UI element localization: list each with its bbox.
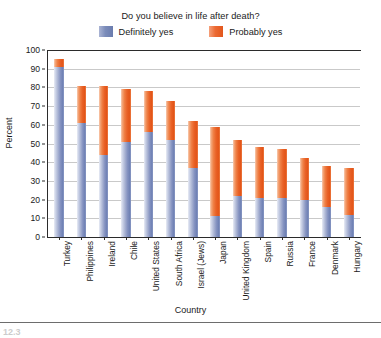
- bar-segment-definitely-yes[interactable]: [188, 168, 198, 237]
- y-axis-tick-mark: [42, 199, 45, 200]
- y-axis-tick-label: 90: [30, 64, 40, 74]
- bar-segment-probably-yes[interactable]: [121, 89, 131, 141]
- bar-segment-definitely-yes[interactable]: [166, 140, 176, 237]
- x-axis-tick-label: Japan: [218, 241, 228, 264]
- y-axis-tick-label: 100: [26, 45, 40, 55]
- y-axis-tick-mark: [42, 87, 45, 88]
- x-axis-tick-mark: [327, 237, 328, 240]
- x-axis-tick-label: Ireland: [107, 241, 117, 267]
- bar-segment-probably-yes[interactable]: [300, 158, 310, 199]
- legend-swatch-icon-probably-yes: [209, 26, 223, 37]
- bar-segment-probably-yes[interactable]: [144, 91, 154, 132]
- x-axis-tick-mark: [282, 237, 283, 240]
- chart-title: Do you believe in life after death?: [0, 11, 381, 21]
- bar-column[interactable]: [300, 50, 310, 237]
- bar-column[interactable]: [344, 50, 354, 237]
- bar-segment-definitely-yes[interactable]: [300, 200, 310, 237]
- x-axis-tick-label: Russia: [285, 241, 295, 267]
- bar-column[interactable]: [54, 50, 64, 237]
- caption-fragment: 12.3: [3, 327, 21, 335]
- x-axis-title: Country: [0, 305, 381, 315]
- x-axis-tick-label: United States: [151, 241, 161, 291]
- x-axis-tick-mark: [81, 237, 82, 240]
- bar-stack: [166, 101, 176, 238]
- legend-entry-probably-yes: Probably yes: [209, 26, 282, 37]
- y-axis-tick-label: 40: [30, 157, 40, 167]
- figure-container: Do you believe in life after death? Defi…: [0, 0, 381, 338]
- bar-segment-definitely-yes[interactable]: [277, 198, 287, 237]
- bar-column[interactable]: [233, 50, 243, 237]
- bar-stack: [322, 166, 332, 237]
- y-axis-tick-label: 60: [30, 120, 40, 130]
- legend-swatch-icon-definitely-yes: [99, 26, 113, 37]
- bar-segment-definitely-yes[interactable]: [121, 142, 131, 237]
- bar-stack: [210, 127, 220, 237]
- bar-segment-definitely-yes[interactable]: [144, 132, 154, 237]
- y-axis-tick-mark: [42, 180, 45, 181]
- bar-segment-definitely-yes[interactable]: [344, 215, 354, 237]
- bars-layer: [48, 50, 360, 237]
- x-axis-tick-label: Israel (Jews): [196, 241, 206, 288]
- bar-column[interactable]: [210, 50, 220, 237]
- bar-column[interactable]: [322, 50, 332, 237]
- bar-column[interactable]: [144, 50, 154, 237]
- bar-segment-definitely-yes[interactable]: [255, 198, 265, 237]
- bar-segment-definitely-yes[interactable]: [54, 67, 64, 237]
- x-axis-tick-label: France: [307, 241, 317, 267]
- bar-column[interactable]: [99, 50, 109, 237]
- bar-segment-probably-yes[interactable]: [99, 86, 109, 155]
- bar-segment-definitely-yes[interactable]: [210, 216, 220, 237]
- legend-entry-definitely-yes: Definitely yes: [99, 26, 174, 37]
- bar-column[interactable]: [166, 50, 176, 237]
- bar-column[interactable]: [255, 50, 265, 237]
- x-axis-tick-mark: [237, 237, 238, 240]
- y-axis-title: Percent: [4, 101, 14, 165]
- bar-segment-probably-yes[interactable]: [188, 121, 198, 168]
- bar-segment-definitely-yes[interactable]: [99, 155, 109, 237]
- bar-segment-probably-yes[interactable]: [233, 140, 243, 196]
- bar-stack: [188, 121, 198, 237]
- bar-segment-definitely-yes[interactable]: [322, 207, 332, 237]
- y-axis-tick-mark: [42, 237, 45, 238]
- x-axis-tick-mark: [260, 237, 261, 240]
- y-axis-tick-label: 20: [30, 195, 40, 205]
- y-axis-tick-mark: [42, 218, 45, 219]
- bar-stack: [233, 140, 243, 237]
- bar-segment-definitely-yes[interactable]: [77, 123, 87, 237]
- y-axis-tick-mark: [42, 124, 45, 125]
- bar-segment-definitely-yes[interactable]: [233, 196, 243, 237]
- bar-segment-probably-yes[interactable]: [54, 59, 64, 66]
- footer-divider: [0, 322, 381, 323]
- bar-segment-probably-yes[interactable]: [166, 101, 176, 140]
- x-axis-tick-mark: [304, 237, 305, 240]
- y-axis-tick-label: 0: [35, 232, 40, 242]
- bar-column[interactable]: [277, 50, 287, 237]
- bar-segment-probably-yes[interactable]: [322, 166, 332, 207]
- bar-column[interactable]: [121, 50, 131, 237]
- x-axis-line: [47, 237, 361, 238]
- x-axis-tick-mark: [104, 237, 105, 240]
- bar-segment-probably-yes[interactable]: [277, 149, 287, 198]
- bar-segment-probably-yes[interactable]: [255, 147, 265, 197]
- x-axis-tick-mark: [215, 237, 216, 240]
- chart-legend: Definitely yes Probably yes: [0, 26, 381, 37]
- bar-stack: [99, 86, 109, 237]
- x-axis-tick-mark: [126, 237, 127, 240]
- bar-stack: [344, 168, 354, 237]
- y-axis-tick-label: 80: [30, 82, 40, 92]
- x-axis-tick-mark: [349, 237, 350, 240]
- bar-column[interactable]: [77, 50, 87, 237]
- y-axis-tick-mark: [42, 106, 45, 107]
- bar-stack: [54, 59, 64, 237]
- y-axis-tick-mark: [42, 162, 45, 163]
- bar-segment-probably-yes[interactable]: [210, 127, 220, 217]
- y-axis-tick-label: 70: [30, 101, 40, 111]
- bar-column[interactable]: [188, 50, 198, 237]
- bar-stack: [121, 89, 131, 237]
- bar-segment-probably-yes[interactable]: [344, 168, 354, 215]
- bar-segment-probably-yes[interactable]: [77, 86, 87, 123]
- y-axis-tick-mark: [42, 68, 45, 69]
- legend-label-definitely-yes: Definitely yes: [119, 27, 174, 37]
- y-axis-tick-mark: [42, 143, 45, 144]
- bar-stack: [144, 91, 154, 237]
